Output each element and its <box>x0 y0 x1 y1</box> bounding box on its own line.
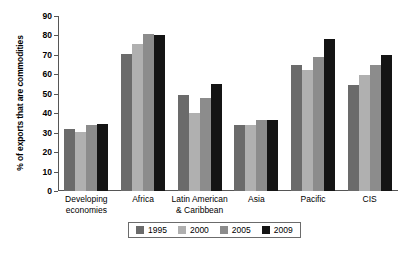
legend-swatch-icon <box>178 226 186 234</box>
bar-2005 <box>86 125 97 191</box>
legend-item: 2009 <box>262 226 293 235</box>
bar-1995 <box>234 125 245 191</box>
legend-item: 1995 <box>136 226 167 235</box>
y-tick-label: 30 <box>32 128 52 137</box>
y-tick-label: 70 <box>32 51 52 60</box>
bar-2005 <box>256 120 267 191</box>
bar-2009 <box>324 39 335 191</box>
y-axis-title: % of exports that are commodities <box>15 13 25 193</box>
bar-2000 <box>245 125 256 191</box>
x-tick-label: Africa <box>115 194 172 215</box>
x-tick-label-line <box>115 205 172 216</box>
bar-2005 <box>370 65 381 191</box>
legend-item: 2000 <box>178 226 209 235</box>
x-tick-label-line: CIS <box>341 194 398 205</box>
legend-label: 1995 <box>148 226 167 235</box>
legend-label: 2009 <box>274 226 293 235</box>
x-tick-label-line: Developing <box>58 194 115 205</box>
x-tick-label: Pacific <box>285 194 342 215</box>
bar-1995 <box>121 54 132 191</box>
x-tick-label-line: Latin American <box>171 194 228 205</box>
x-tick-label-line: Asia <box>228 194 285 205</box>
bar-2009 <box>211 84 222 191</box>
y-tick-label: 10 <box>32 167 52 176</box>
x-axis-labels: DevelopingeconomiesAfrica Latin American… <box>58 194 398 215</box>
legend-swatch-icon <box>262 226 270 234</box>
chart-legend: 1995200020052009 <box>128 222 301 238</box>
bar-2000 <box>359 75 370 191</box>
bar-1995 <box>64 129 75 191</box>
x-tick-label: Asia <box>228 194 285 215</box>
bar-2005 <box>313 57 324 191</box>
bar-2000 <box>302 70 313 191</box>
x-tick-label-line: economies <box>58 205 115 216</box>
bar-group <box>341 16 398 191</box>
bar-group <box>58 16 115 191</box>
y-tick-label: 40 <box>32 109 52 118</box>
bar-1995 <box>348 85 359 191</box>
x-tick-label-line <box>285 205 342 216</box>
y-tick-label: 60 <box>32 70 52 79</box>
x-tick-label-line <box>341 205 398 216</box>
bar-1995 <box>291 65 302 191</box>
x-tick-label-line: & Caribbean <box>171 205 228 216</box>
bar-2009 <box>267 120 278 191</box>
legend-label: 2005 <box>232 226 251 235</box>
legend-swatch-icon <box>136 226 144 234</box>
legend-label: 2000 <box>190 226 209 235</box>
legend-item: 2005 <box>220 226 251 235</box>
bar-group <box>171 16 228 191</box>
bar-2000 <box>132 44 143 191</box>
bar-2009 <box>381 55 392 191</box>
bar-group <box>228 16 285 191</box>
y-tick-label: 50 <box>32 90 52 99</box>
bar-chart-figure: % of exports that are commodities 010203… <box>0 0 405 256</box>
x-tick-label: Developingeconomies <box>58 194 115 215</box>
bar-group <box>285 16 342 191</box>
y-tick-mark <box>54 191 58 192</box>
y-tick-label: 20 <box>32 148 52 157</box>
x-tick-label-line: Pacific <box>285 194 342 205</box>
legend-swatch-icon <box>220 226 228 234</box>
bar-2009 <box>97 124 108 191</box>
bar-2000 <box>189 113 200 191</box>
x-tick-label-line: Africa <box>115 194 172 205</box>
x-tick-label: CIS <box>341 194 398 215</box>
y-tick-label: 90 <box>32 12 52 21</box>
bar-1995 <box>178 95 189 191</box>
bar-2005 <box>143 34 154 192</box>
x-tick-label: Latin American& Caribbean <box>171 194 228 215</box>
bar-2005 <box>200 98 211 191</box>
bar-2000 <box>75 132 86 191</box>
bar-group <box>115 16 172 191</box>
bar-groups <box>58 16 398 191</box>
plot-area: 0102030405060708090 <box>58 16 398 191</box>
x-tick-label-line <box>228 205 285 216</box>
y-tick-label: 80 <box>32 31 52 40</box>
y-tick-label: 0 <box>32 187 52 196</box>
bar-2009 <box>154 35 165 191</box>
